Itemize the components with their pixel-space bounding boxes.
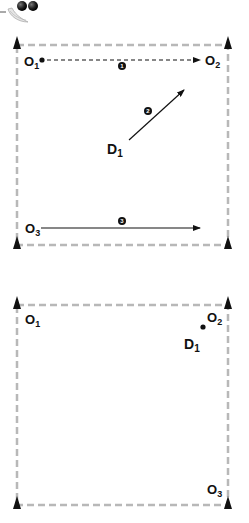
cone-icon <box>13 36 21 49</box>
label-o3: O3 <box>207 482 222 499</box>
run-arrow-2 <box>129 90 184 140</box>
label-d1: D1 <box>184 336 200 354</box>
diagram-top: O1 1 O2 D1 2 O3 3 <box>13 36 232 249</box>
label-o2: O2 <box>205 53 220 70</box>
step-badge-1: 1 <box>118 62 126 70</box>
label-o1: O1 <box>24 54 39 71</box>
step-badge-3: 3 <box>118 217 126 225</box>
cone-icon <box>13 236 21 249</box>
diagram-bottom: O1 O2 D1 O3 <box>13 296 232 509</box>
cone-icon <box>13 296 21 309</box>
field-frame <box>17 305 228 505</box>
step-badge-2: 2 <box>144 107 152 115</box>
label-o2: O2 <box>207 310 222 327</box>
cone-icon <box>224 296 232 309</box>
ball-dot <box>200 324 205 329</box>
balls-icon <box>0 1 38 22</box>
label-o3: O3 <box>25 221 40 238</box>
label-o1: O1 <box>25 312 40 329</box>
ball-dot <box>39 57 44 62</box>
cone-icon <box>224 496 232 509</box>
cone-icon <box>224 236 232 249</box>
label-d1: D1 <box>107 141 123 159</box>
cone-icon <box>13 496 21 509</box>
cone-icon <box>224 36 232 49</box>
field-frame <box>17 45 228 245</box>
